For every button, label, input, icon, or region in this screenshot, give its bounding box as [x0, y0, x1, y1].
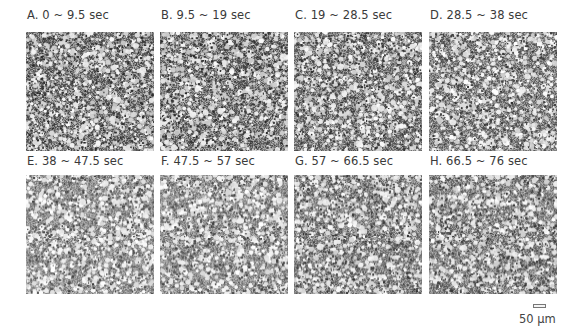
panel-label: E. 38 ~ 47.5 sec: [27, 155, 123, 168]
scale-bar: [533, 304, 546, 308]
panel-label: G. 57 ~ 66.5 sec: [295, 155, 393, 168]
panel-label: D. 28.5 ~ 38 sec: [430, 9, 528, 22]
microscopy-image: [294, 32, 422, 151]
panel-label: C. 19 ~ 28.5 sec: [295, 9, 392, 22]
microscopy-image: [160, 32, 288, 151]
panel-label: F. 47.5 ~ 57 sec: [161, 155, 255, 168]
microscopy-image: [429, 32, 557, 151]
scale-bar-label: 50 μm: [519, 312, 556, 326]
microscopy-image: [26, 32, 154, 151]
panel-label: H. 66.5 ~ 76 sec: [430, 155, 528, 168]
panel-label: A. 0 ~ 9.5 sec: [27, 9, 109, 22]
microscopy-image: [429, 175, 557, 294]
microscopy-image: [160, 175, 288, 294]
panel-label: B. 9.5 ~ 19 sec: [161, 9, 251, 22]
microscopy-image: [294, 175, 422, 294]
microscopy-image: [26, 175, 154, 294]
